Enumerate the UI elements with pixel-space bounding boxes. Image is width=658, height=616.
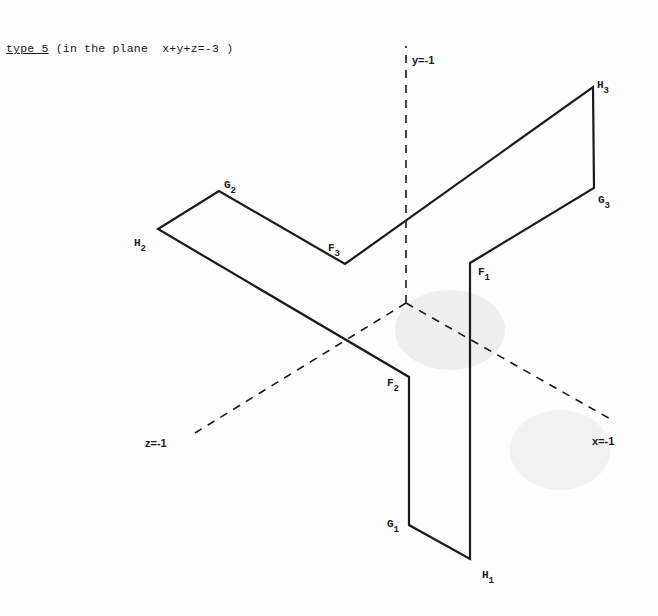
diagram-page: type 5 (in the plane x+y+z=-3 ) y=-1 x=-… bbox=[0, 0, 658, 616]
vertex-label-f2: F2 bbox=[387, 377, 399, 394]
paper-smudge bbox=[395, 290, 610, 490]
z-axis-line bbox=[195, 303, 406, 433]
vertex-label-h2: H2 bbox=[134, 237, 146, 254]
vertex-label-h1: H1 bbox=[482, 569, 495, 586]
vertex-label-g1: G1 bbox=[387, 518, 400, 535]
vertex-label-g3: G3 bbox=[598, 194, 610, 211]
vertex-label-g2: G2 bbox=[224, 179, 236, 196]
y-axis-label: y=-1 bbox=[412, 54, 434, 66]
x-axis-label: x=-1 bbox=[592, 435, 614, 447]
figure-outline bbox=[158, 87, 594, 559]
vertex-label-h3: H3 bbox=[597, 79, 609, 96]
y-shaped-figure-diagram: y=-1 x=-1 z=-1 H3 G3 F1 F3 G2 H2 F2 G1 H… bbox=[0, 0, 658, 616]
vertex-labels: H3 G3 F1 F3 G2 H2 F2 G1 H1 bbox=[134, 79, 610, 586]
vertex-label-f1: F1 bbox=[478, 266, 491, 283]
z-axis-label: z=-1 bbox=[145, 437, 167, 449]
